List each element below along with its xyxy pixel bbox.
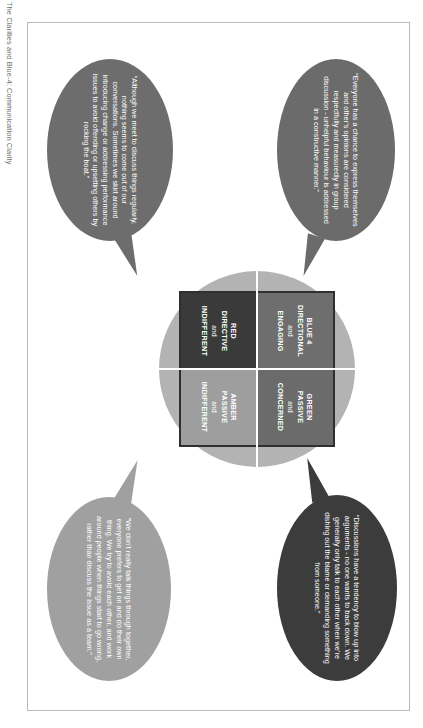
communication-clarity-model: BLUE 4 DIRECTIONAL and ENGAGING GREEN PA… <box>159 271 355 467</box>
quadrant-red-label: RED DIRECTIVE and INDIFFERENT <box>200 306 238 356</box>
speech-bubble-tail-icon <box>114 457 146 505</box>
quadrant-green: GREEN PASSIVE and CONCERNED <box>257 369 333 445</box>
quadrant-divider-horizontal <box>256 271 258 467</box>
page-title: The Clarities and Blue-4: Communication … <box>0 0 18 728</box>
quadrant-green-line3: CONCERNED <box>276 383 286 432</box>
quadrant-green-line2: PASSIVE <box>295 383 305 432</box>
slide-canvas: “Everyone has a chance to express themse… <box>28 23 410 711</box>
quadrant-amber-connector: and <box>209 382 219 432</box>
speech-bubble-red-text: “Discussions have a tendency to blow up … <box>313 495 362 681</box>
speech-bubble-amber: “We don’t really talk things through tog… <box>47 497 171 681</box>
quadrant-blue-4-line1: BLUE 4 <box>305 305 315 357</box>
speech-bubble-green-text: “Although we meet to discuss things regu… <box>81 59 139 241</box>
quadrant-amber-line1: AMBER <box>229 382 239 432</box>
quadrant-red: RED DIRECTIVE and INDIFFERENT <box>181 293 257 369</box>
quadrant-amber-line3: INDIFFERENT <box>200 382 210 432</box>
quadrant-blue-4-line3: ENGAGING <box>276 305 286 357</box>
speech-bubble-red: “Discussions have a tendency to blow up … <box>277 495 397 681</box>
quadrant-blue-4-label: BLUE 4 DIRECTIONAL and ENGAGING <box>276 305 314 357</box>
quadrant-red-connector: and <box>209 306 219 356</box>
quadrant-green-line1: GREEN <box>305 383 315 432</box>
speech-bubble-tail-icon <box>114 233 145 279</box>
quadrant-blue-4-line2: DIRECTIONAL <box>295 305 305 357</box>
quadrant-blue-4: BLUE 4 DIRECTIONAL and ENGAGING <box>257 293 333 369</box>
quadrant-green-label: GREEN PASSIVE and CONCERNED <box>276 383 314 432</box>
quadrant-amber-line2: PASSIVE <box>219 382 229 432</box>
quadrant-amber-label: AMBER PASSIVE and INDIFFERENT <box>200 382 238 432</box>
quadrant-red-line2: DIRECTIVE <box>219 306 229 356</box>
quadrant-green-connector: and <box>285 383 295 432</box>
quadrant-blue-4-connector: and <box>285 305 295 357</box>
speech-bubble-amber-text: “We don’t really talk things through tog… <box>85 497 134 681</box>
speech-bubble-blue-4-text: “Everyone has a chance to express themse… <box>312 59 361 241</box>
quadrant-red-line1: RED <box>229 306 239 356</box>
quadrant-amber: AMBER PASSIVE and INDIFFERENT <box>181 369 257 445</box>
speech-bubble-blue-4: “Everyone has a chance to express themse… <box>277 59 395 241</box>
slide-frame: “Everyone has a chance to express themse… <box>27 22 410 711</box>
quadrant-red-line3: INDIFFERENT <box>200 306 210 356</box>
speech-bubble-green: “Although we meet to discuss things regu… <box>47 59 173 241</box>
